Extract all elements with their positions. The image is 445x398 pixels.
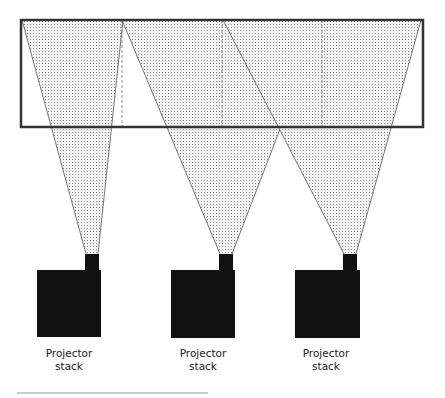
projector-lens-1: [85, 254, 99, 270]
projector-lens-2: [219, 254, 233, 270]
projector-stack-3: [295, 270, 360, 338]
projector-label-3: Projectorstack: [281, 347, 371, 373]
projection-beams: [22, 20, 421, 254]
projector-overlap-diagram: [0, 0, 445, 398]
projector-stack-1: [37, 270, 101, 337]
projector-stacks: [37, 254, 360, 338]
projector-stack-2: [171, 270, 235, 338]
beam-1: [22, 20, 123, 254]
projector-label-2: Projectorstack: [158, 347, 248, 373]
projector-lens-3: [343, 254, 357, 270]
projector-label-1: Projectorstack: [24, 347, 114, 373]
